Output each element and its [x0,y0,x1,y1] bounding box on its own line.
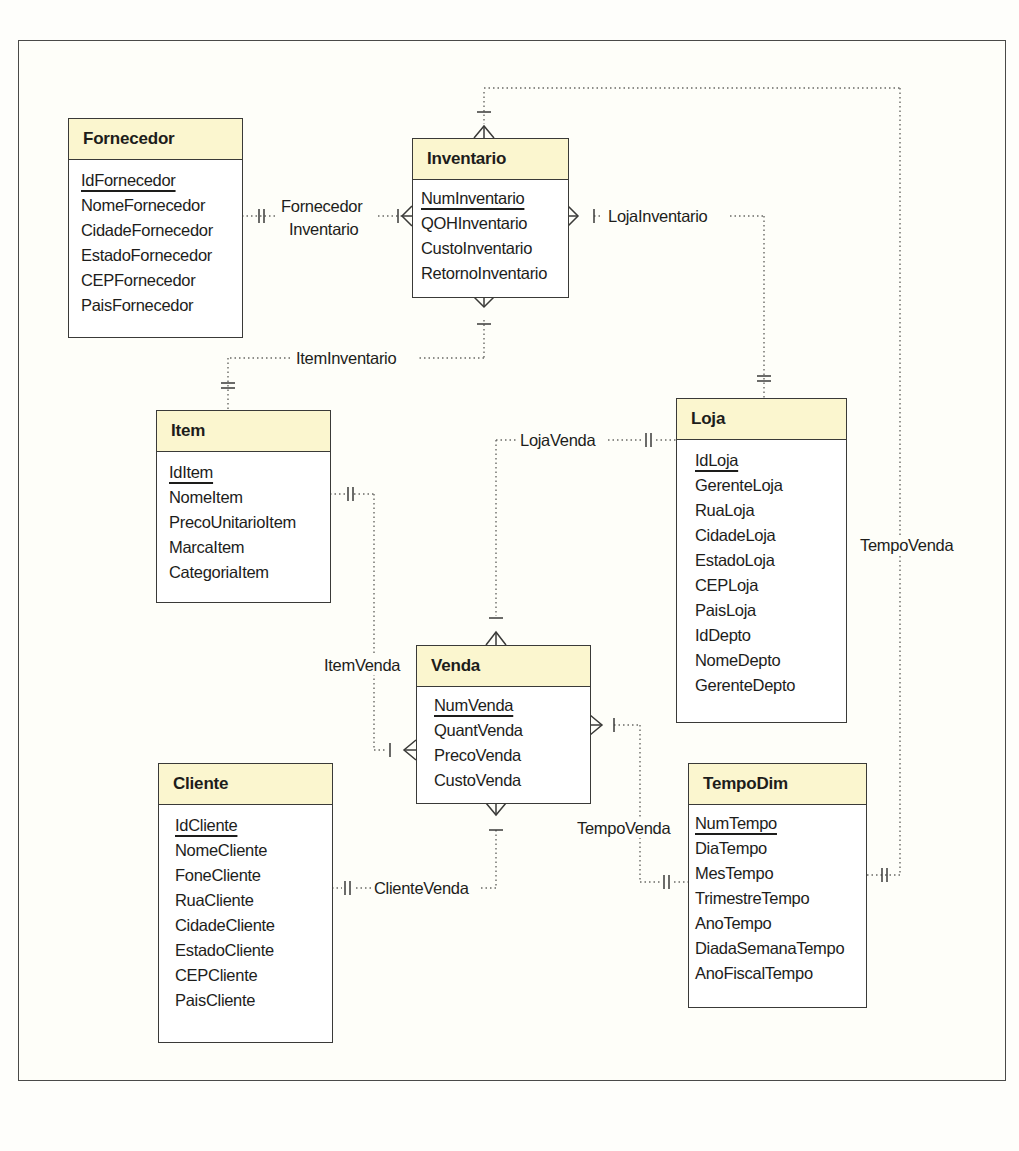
rel-label-cliente-venda: ClienteVenda [374,878,469,898]
entity-title: Venda [417,646,590,687]
rel-label-item-venda: ItemVenda [322,655,402,675]
rel-label-item-inventario: ItemInventario [296,348,396,368]
entity-title: Item [157,411,330,452]
entity-tempodim[interactable]: TempoDim NumTempo DiaTempo MesTempo Trim… [688,763,867,1008]
attribute: EstadoCliente [175,938,318,963]
entity-fornecedor[interactable]: Fornecedor IdFornecedor NomeFornecedor C… [68,118,243,338]
attribute: CEPLoja [695,573,832,598]
attribute: PaisLoja [695,598,832,623]
attribute: NomeDepto [695,648,832,673]
entity-inventario[interactable]: Inventario NumInventario QOHInventario C… [412,138,569,298]
attribute: EstadoLoja [695,548,832,573]
entity-title: Inventario [413,139,568,180]
attribute: MesTempo [695,861,852,886]
attribute-primary-key: IdLoja [695,448,832,473]
attribute: RuaLoja [695,498,832,523]
attribute: QuantVenda [434,718,576,743]
attribute: QOHInventario [421,211,562,236]
attribute: AnoFiscalTempo [695,961,852,986]
rel-label-tempo-venda-right: TempoVenda [858,535,955,555]
attribute-primary-key: NumVenda [434,693,576,718]
entity-title: TempoDim [689,764,866,805]
rel-label-loja-venda: LojaVenda [520,430,595,450]
attribute: MarcaItem [169,535,316,560]
attribute: RuaCliente [175,888,318,913]
attribute: TrimestreTempo [695,886,852,911]
attribute: CidadeCliente [175,913,318,938]
entity-venda[interactable]: Venda NumVenda QuantVenda PrecoVenda Cus… [416,645,591,804]
attribute: CategoriaItem [169,560,316,585]
attribute: AnoTempo [695,911,852,936]
attribute: GerenteLoja [695,473,832,498]
rel-label-loja-inventario: LojaInventario [608,206,707,226]
attribute: NomeItem [169,485,316,510]
attribute: PrecoUnitarioItem [169,510,316,535]
attribute-primary-key: NumTempo [695,811,852,836]
attribute: FoneCliente [175,863,318,888]
attribute-primary-key: IdFornecedor [81,168,228,193]
entity-title: Loja [677,399,846,440]
attribute: DiaTempo [695,836,852,861]
attribute: PaisFornecedor [81,293,228,318]
attribute: EstadoFornecedor [81,243,228,268]
entity-title: Fornecedor [69,119,242,160]
attribute: CEPFornecedor [81,268,228,293]
attribute: IdDepto [695,623,832,648]
attribute: GerenteDepto [695,673,832,698]
attribute: CustoInventario [421,236,562,261]
attribute: PrecoVenda [434,743,576,768]
attribute: RetornoInventario [421,261,562,286]
attribute: DiadaSemanaTempo [695,936,852,961]
entity-cliente[interactable]: Cliente IdCliente NomeCliente FoneClient… [158,763,333,1043]
attribute: CidadeFornecedor [81,218,228,243]
rel-label-fornecedor-inventario-line1: Fornecedor [281,196,362,216]
attribute: CustoVenda [434,768,576,793]
attribute: NomeCliente [175,838,318,863]
attribute: PaisCliente [175,988,318,1013]
attribute: CidadeLoja [695,523,832,548]
attribute-primary-key: IdItem [169,460,316,485]
entity-title: Cliente [159,764,332,805]
entity-loja[interactable]: Loja IdLoja GerenteLoja RuaLoja CidadeLo… [676,398,847,723]
entity-item[interactable]: Item IdItem NomeItem PrecoUnitarioItem M… [156,410,331,603]
rel-label-tempo-venda-left: TempoVenda [575,818,672,838]
attribute-primary-key: NumInventario [421,186,562,211]
attribute-primary-key: IdCliente [175,813,318,838]
rel-label-fornecedor-inventario-line2: Inventario [289,219,358,239]
attribute: NomeFornecedor [81,193,228,218]
attribute: CEPCliente [175,963,318,988]
